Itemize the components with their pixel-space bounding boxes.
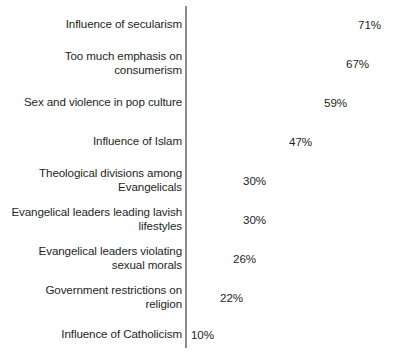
- bar-track: 67%: [187, 47, 378, 78]
- bar-track: 10%: [187, 320, 218, 348]
- bar-track: 26%: [187, 242, 265, 273]
- bar-row: Sex and violence in pop culture59%: [0, 86, 401, 117]
- bar-value-label: 26%: [233, 251, 256, 264]
- bar-track: 71%: [187, 8, 390, 39]
- bar-category-label: Influence of secularism: [3, 17, 182, 31]
- bar-value-label: 10%: [191, 328, 214, 341]
- bar-value-label: 30%: [243, 173, 266, 186]
- bar-category-label: Influence of Islam: [3, 134, 182, 148]
- horizontal-bar-chart: Influence of secularism71%Too much empha…: [0, 0, 401, 356]
- bar-row: Government restrictions on religion22%: [0, 281, 401, 312]
- bar-track: 59%: [187, 86, 356, 117]
- bar-track: 30%: [187, 203, 275, 234]
- bar-row: Too much emphasis on consumerism67%: [0, 47, 401, 78]
- bar-value-label: 59%: [324, 95, 347, 108]
- bar-category-label: Evangelical leaders violating sexual mor…: [3, 244, 182, 271]
- bar-row: Theological divisions among Evangelicals…: [0, 164, 401, 195]
- bar-track: 22%: [187, 281, 252, 312]
- bar-category-label: Government restrictions on religion: [3, 283, 182, 310]
- bar-row: Influence of Islam47%: [0, 125, 401, 156]
- bar-track: 47%: [187, 125, 321, 156]
- bar-category-label: Evangelical leaders leading lavish lifes…: [3, 205, 182, 232]
- bar-category-label: Theological divisions among Evangelicals: [3, 166, 182, 193]
- bar-category-label: Sex and violence in pop culture: [3, 95, 182, 109]
- bar-value-label: 71%: [358, 17, 381, 30]
- bar-row: Evangelical leaders leading lavish lifes…: [0, 203, 401, 234]
- bar-category-label: Influence of Catholicism: [3, 327, 182, 341]
- bar-row: Evangelical leaders violating sexual mor…: [0, 242, 401, 273]
- bar-value-label: 30%: [243, 212, 266, 225]
- bar-row: Influence of Catholicism10%: [0, 320, 401, 348]
- bar-track: 30%: [187, 164, 275, 195]
- bar-value-label: 67%: [346, 56, 369, 69]
- bar-row: Influence of secularism71%: [0, 8, 401, 39]
- bar-value-label: 22%: [220, 290, 243, 303]
- bar-value-label: 47%: [289, 134, 312, 147]
- bar-category-label: Too much emphasis on consumerism: [3, 49, 182, 76]
- plot-area: Influence of secularism71%Too much empha…: [0, 0, 401, 356]
